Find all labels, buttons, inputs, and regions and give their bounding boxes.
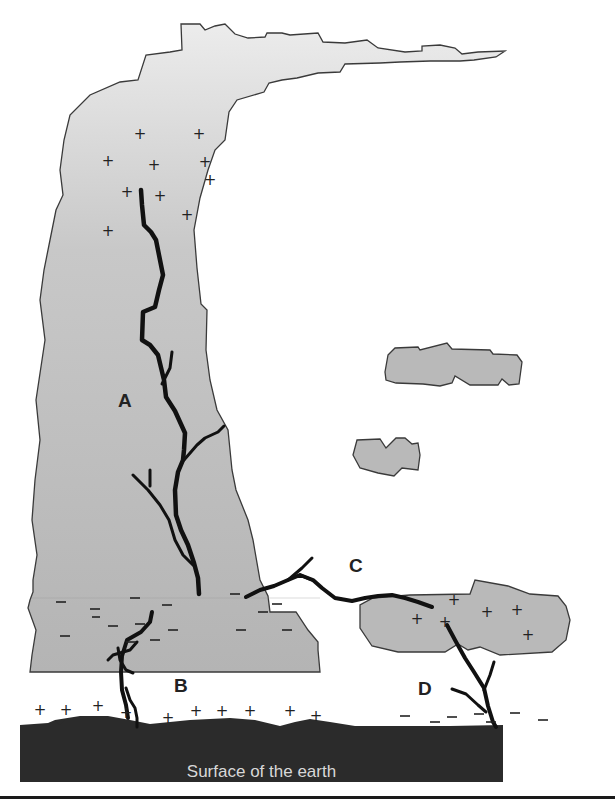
ground-label: Surface of the earth [20,762,503,782]
svg-text:+: + [60,701,73,719]
lightning-diagram: ++ +++ + ++ + + +++ +++ +++ +++ +++ + [0,0,615,802]
svg-text:+: + [121,183,134,201]
svg-text:+: + [199,153,212,171]
small-cloud-middle [353,438,420,476]
svg-text:+: + [120,704,133,722]
label-b: B [174,676,188,695]
bottom-divider [0,796,615,799]
svg-text:+: + [190,702,203,720]
svg-text:+: + [522,626,535,644]
svg-text:+: + [102,152,115,170]
cloud-right-positive [360,580,570,655]
svg-text:+: + [162,709,175,727]
svg-text:+: + [34,701,47,719]
small-cloud-upper [385,343,522,386]
svg-text:+: + [181,206,194,224]
svg-text:+: + [448,591,461,609]
svg-text:+: + [148,156,161,174]
svg-text:+: + [481,603,494,621]
svg-text:+: + [102,222,115,240]
svg-text:+: + [439,613,452,631]
label-c: C [349,556,363,575]
svg-text:+: + [154,187,167,205]
svg-text:+: + [204,171,217,189]
svg-text:+: + [134,125,147,143]
label-d: D [418,679,432,698]
svg-text:+: + [92,697,105,715]
svg-text:+: + [216,702,229,720]
svg-text:+: + [244,702,257,720]
svg-text:+: + [411,610,424,628]
svg-text:+: + [193,125,206,143]
label-a: A [118,391,132,410]
svg-text:+: + [310,707,323,725]
svg-text:+: + [284,702,297,720]
negative-charges-ground [400,713,548,722]
svg-text:+: + [511,601,524,619]
